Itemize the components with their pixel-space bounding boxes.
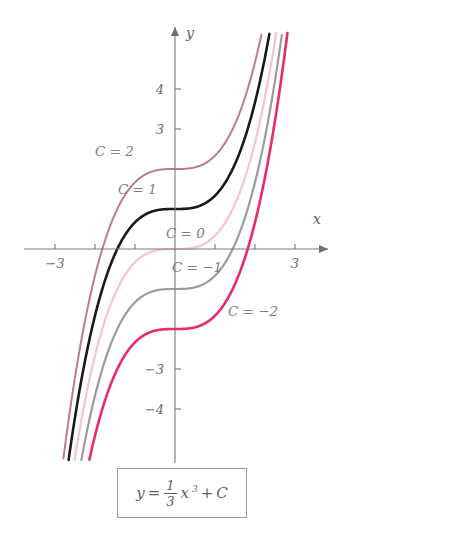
formula-lhs: y	[136, 484, 144, 502]
curve-label-C-1: C = 1	[118, 181, 157, 197]
y-tick-label--3: −3	[145, 362, 164, 377]
formula-box: y = 1 3 x3 + C	[117, 468, 247, 518]
y-tick-label-4: 4	[155, 82, 164, 97]
axes-group	[24, 27, 328, 463]
x-tick-label--3: −3	[45, 256, 64, 271]
curve-label-C-0: C = 0	[166, 225, 205, 241]
formula-fraction: 1 3	[164, 479, 176, 508]
curve-label-C--1: C = −1	[172, 259, 222, 275]
formula-expression: y = 1 3 x3 + C	[136, 479, 228, 508]
x-tick-label-3: 3	[291, 256, 299, 271]
formula-denominator: 3	[164, 494, 176, 508]
formula-plus: +	[201, 484, 214, 502]
formula-constant: C	[216, 484, 227, 502]
y-tick-label--4: −4	[145, 402, 164, 417]
cubic-family-chart: −3343−3−4 C = 2C = 1C = 0C = −1C = −2 x …	[0, 0, 451, 544]
formula-numerator: 1	[164, 479, 176, 493]
x-axis-label: x	[313, 211, 321, 227]
curve-C--1	[81, 35, 281, 460]
y-axis-label: y	[185, 25, 195, 41]
curve-label-C-2: C = 2	[95, 143, 134, 159]
curve-label-C--2: C = −2	[228, 303, 278, 319]
x-axis-arrowhead	[319, 245, 328, 253]
y-tick-label-3: 3	[156, 122, 164, 137]
curve-C-1	[69, 34, 270, 460]
formula-exponent: 3	[192, 484, 198, 494]
formula-equals: =	[148, 484, 161, 502]
formula-variable: x	[181, 484, 189, 502]
y-axis-arrowhead	[171, 27, 179, 36]
curve-C-2	[63, 35, 261, 459]
